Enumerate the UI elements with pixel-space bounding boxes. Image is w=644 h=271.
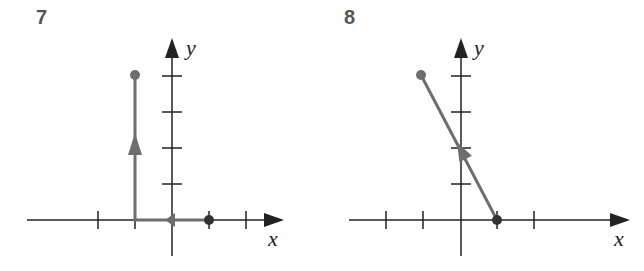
x-axis-arrow-icon <box>264 213 284 227</box>
x-axis-label: x <box>613 226 624 251</box>
x-axis-label: x <box>267 226 278 251</box>
start-point <box>204 215 214 225</box>
diagrams: y x y x <box>0 0 644 271</box>
panel-7-diagram: y x <box>27 35 284 256</box>
y-axis-label: y <box>184 35 196 60</box>
up-arrow-icon <box>128 133 142 155</box>
start-point <box>492 215 502 225</box>
x-axis-arrow-icon <box>610 213 630 227</box>
end-point <box>130 70 140 80</box>
y-axis-arrow-icon <box>454 38 468 58</box>
end-point <box>416 70 426 80</box>
left-arrow-icon <box>165 213 175 227</box>
panel-8-diagram: y x <box>349 35 630 256</box>
y-axis-label: y <box>472 35 484 60</box>
y-axis-arrow-icon <box>165 38 179 58</box>
